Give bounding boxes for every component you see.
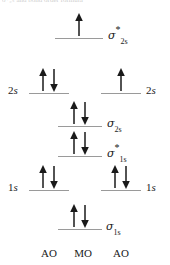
orbital-letter: s <box>14 181 18 193</box>
orbital-subscript: 1s <box>114 228 121 237</box>
arrow-up-icon <box>117 68 125 91</box>
sigma-glyph: σ <box>107 147 115 160</box>
electron-arrows <box>29 163 69 189</box>
arrow-up-icon <box>39 68 47 91</box>
arrow-up-icon <box>70 101 78 124</box>
arrow-down-icon <box>50 166 58 189</box>
label-sigma-1s: σ1s <box>106 221 121 232</box>
arrow-up-icon <box>75 13 83 36</box>
energy-level-line <box>101 190 141 191</box>
energy-level-line <box>29 93 69 94</box>
arrow-up-icon <box>111 165 119 188</box>
electron-arrows <box>58 99 102 125</box>
sigma-glyph: σ <box>107 117 115 130</box>
arrow-up-icon <box>70 131 78 154</box>
orbital-letter: s <box>14 84 18 96</box>
label-ao-1s-left: 1s <box>8 182 18 193</box>
label-ao-2s-right: 2s <box>146 85 156 96</box>
orbital-subscript: 2s <box>115 125 122 134</box>
clipped-caption-text: σ*₂ₛ and bond order formula <box>2 0 168 4</box>
energy-level-line <box>58 156 102 157</box>
label-ao-1s-right: 1s <box>146 182 156 193</box>
antibonding-star: * <box>116 24 121 35</box>
arrow-down-icon <box>81 205 89 228</box>
arrow-down-icon <box>81 132 89 155</box>
column-label-ao-right: AO <box>98 248 144 259</box>
electron-arrows <box>101 163 141 189</box>
sigma-glyph: σ <box>106 220 114 233</box>
energy-level-line <box>29 190 69 191</box>
energy-level-line <box>58 126 102 127</box>
electron-arrows <box>58 129 102 155</box>
arrow-down-icon <box>50 69 58 92</box>
label-sigma-2s: σ2s <box>107 118 122 129</box>
label-sigma-star-1s: σ*1s <box>107 148 127 159</box>
antibonding-star: * <box>115 142 120 153</box>
label-ao-2s-left: 2s <box>8 85 18 96</box>
label-sigma-star-2s: σ*2s <box>108 30 128 41</box>
energy-level-line <box>58 229 102 230</box>
electron-arrows <box>55 11 103 37</box>
electron-arrows <box>29 66 69 92</box>
energy-level-line <box>101 93 141 94</box>
energy-level-line <box>55 38 103 39</box>
arrow-down-icon <box>81 102 89 125</box>
electron-arrows <box>58 202 102 228</box>
orbital-subscript: 2s <box>121 37 128 46</box>
arrow-down-icon <box>122 166 130 189</box>
arrow-up-icon <box>39 165 47 188</box>
mo-energy-level-diagram: σ*₂ₛ and bond order formula σ*2s 2s <box>0 0 170 265</box>
orbital-letter: s <box>152 181 156 193</box>
arrow-up-icon <box>70 204 78 227</box>
sigma-glyph: σ <box>108 29 116 42</box>
electron-arrows <box>101 66 141 92</box>
orbital-letter: s <box>152 84 156 96</box>
